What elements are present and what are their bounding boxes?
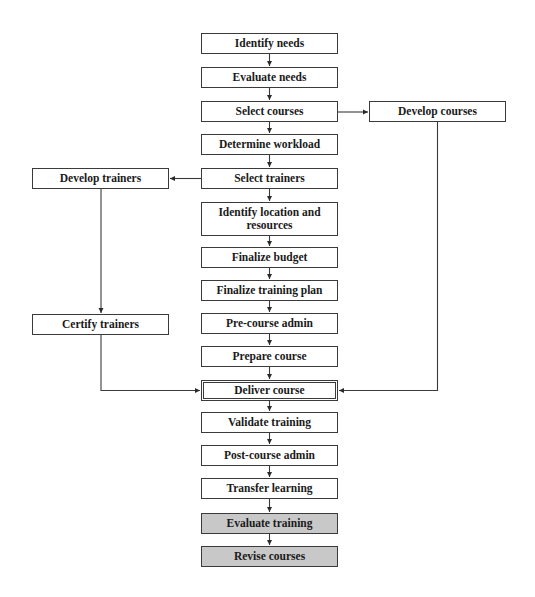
node-revise-courses: Revise courses: [201, 546, 338, 567]
node-finalize-budget: Finalize budget: [201, 247, 338, 268]
node-determine-workload: Determine workload: [201, 134, 338, 155]
node-label: Deliver course: [234, 384, 304, 397]
node-evaluate-needs: Evaluate needs: [201, 67, 338, 88]
node-label: Revise courses: [234, 550, 305, 563]
node-label: Finalize training plan: [216, 284, 322, 297]
node-label: Develop trainers: [60, 172, 141, 185]
node-prepare-course: Prepare course: [201, 346, 338, 367]
node-label: Post-course admin: [224, 449, 315, 462]
node-label: Determine workload: [219, 138, 320, 151]
node-label: Validate training: [228, 416, 311, 429]
node-evaluate-training: Evaluate training: [201, 513, 338, 534]
node-identify-location-and-resources: Identify location and resources: [201, 202, 338, 236]
node-select-trainers: Select trainers: [201, 168, 338, 189]
node-select-courses: Select courses: [201, 101, 338, 122]
node-develop-trainers: Develop trainers: [32, 168, 169, 189]
node-label: Transfer learning: [226, 482, 312, 495]
node-label: Identify needs: [235, 37, 304, 50]
node-transfer-learning: Transfer learning: [201, 478, 338, 499]
node-develop-courses: Develop courses: [369, 101, 506, 122]
node-label: Evaluate needs: [233, 71, 307, 84]
training-process-flowchart: Identify needs Evaluate needs Select cou…: [0, 0, 535, 597]
node-label: Evaluate training: [227, 517, 313, 530]
node-label: Pre-course admin: [226, 317, 313, 330]
node-label: Select trainers: [234, 172, 305, 185]
node-validate-training: Validate training: [201, 412, 338, 433]
node-certify-trainers: Certify trainers: [32, 314, 169, 335]
node-post-course-admin: Post-course admin: [201, 445, 338, 466]
node-finalize-training-plan: Finalize training plan: [201, 280, 338, 301]
node-label: Certify trainers: [62, 318, 139, 331]
node-deliver-course: Deliver course: [201, 380, 338, 401]
node-pre-course-admin: Pre-course admin: [201, 313, 338, 334]
node-label: Develop courses: [398, 105, 477, 118]
node-label: Prepare course: [233, 350, 307, 363]
node-identify-needs: Identify needs: [201, 33, 338, 54]
node-label: Identify location and resources: [216, 206, 323, 232]
node-label: Finalize budget: [232, 251, 308, 264]
node-label: Select courses: [235, 105, 303, 118]
